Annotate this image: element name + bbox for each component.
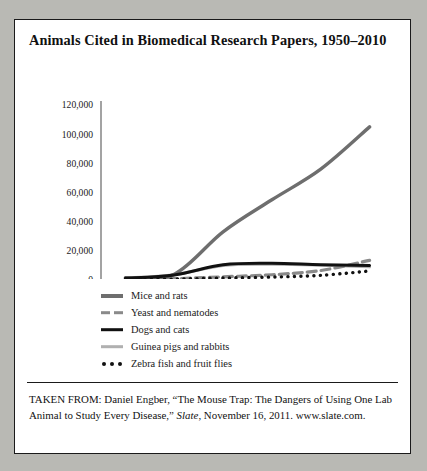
page-title: Animals Cited in Biomedical Research Pap… [15,20,410,49]
y-tick-label: 120,000 [62,99,93,110]
legend-item[interactable]: Dogs and cats [101,321,410,338]
legend-swatch-icon [101,341,123,353]
caption-line-2b: , November 16, [198,409,266,421]
caption-line-3: 2011. www.slate.com. [269,409,366,421]
caption-line-1: TAKEN FROM: Daniel Engber, “The Mouse Tr… [29,393,323,405]
legend-label: Zebra fish and fruit flies [131,358,232,369]
legend-swatch-icon [101,290,123,302]
legend-swatch-icon [101,324,123,336]
y-tick-label: 40,000 [67,216,94,227]
legend-swatch-icon [101,307,123,319]
legend-item[interactable]: Zebra fish and fruit flies [101,355,410,372]
figure-card: Animals Cited in Biomedical Research Pap… [14,19,411,454]
legend-item[interactable]: Yeast and nematodes [101,304,410,321]
line-chart: 020,00040,00060,00080,000100,000120,0001… [15,49,412,279]
chart-legend: Mice and ratsYeast and nematodesDogs and… [15,287,410,372]
legend-label: Yeast and nematodes [131,307,218,318]
legend-swatch-icon [101,358,123,370]
y-tick-label: 80,000 [67,158,94,169]
chart-plot-area: 020,00040,00060,00080,000100,000120,0001… [15,49,412,279]
caption-publication: Slate [177,409,199,421]
legend-item[interactable]: Guinea pigs and rabbits [101,338,410,355]
chart-series-line [125,127,369,279]
y-tick-label: 0 [88,274,93,279]
legend-label: Dogs and cats [131,324,189,335]
y-tick-label: 20,000 [67,245,94,256]
legend-label: Mice and rats [131,290,188,301]
source-caption: TAKEN FROM: Daniel Engber, “The Mouse Tr… [15,383,410,423]
y-tick-label: 60,000 [67,187,94,198]
legend-label: Guinea pigs and rabbits [131,341,229,352]
legend-item[interactable]: Mice and rats [101,287,410,304]
y-tick-label: 100,000 [62,129,93,140]
